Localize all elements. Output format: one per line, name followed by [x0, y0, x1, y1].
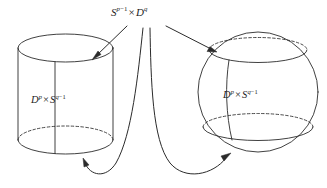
sphere-outline: [198, 32, 318, 152]
label-right-disk-times-sphere: Dp×Sq−1: [223, 90, 258, 101]
arrow-to-sphere-bottom-head: [221, 153, 231, 161]
sphere-top-back-arc: [209, 38, 307, 51]
label-top-exp2: q: [144, 5, 148, 12]
label-left-base1: D: [31, 94, 39, 105]
label-top-exp1-op: −1: [120, 5, 127, 12]
arrow-to-cylinder-top: [92, 26, 127, 60]
cylinder-top-ellipse: [18, 34, 113, 62]
arrow-to-sphere-top: [166, 26, 217, 52]
arrow-to-cylinder-bottom-line: [85, 28, 143, 174]
right-sphere: [198, 32, 318, 152]
label-right-times: ×: [234, 89, 242, 100]
label-left-exp2-op: −1: [59, 93, 66, 100]
label-left-times: ×: [42, 94, 50, 105]
label-top-sphere-times-disk: Sp−1×Dq: [111, 7, 147, 18]
label-left-disk-times-sphere: Dp×Sq−1: [31, 95, 66, 106]
arrow-to-sphere-bottom: [150, 28, 231, 174]
label-top-base2: D: [136, 6, 144, 18]
arrow-to-cylinder-bottom-head: [83, 158, 89, 167]
cylinder-bottom-front-arc: [18, 140, 113, 154]
sphere-top-front-arc: [209, 50, 307, 63]
cylinder-bottom-back-arc: [18, 126, 113, 140]
label-right-base1: D: [223, 89, 231, 100]
label-top-times: ×: [128, 6, 136, 18]
figure-root: Sp−1×Dq Dp×Sq−1 Dp×Sq−1: [0, 0, 327, 188]
label-right-exp2-op: −1: [251, 88, 258, 95]
sphere-bottom-back-arc: [203, 114, 313, 127]
arrow-to-sphere-top-line: [166, 26, 213, 50]
